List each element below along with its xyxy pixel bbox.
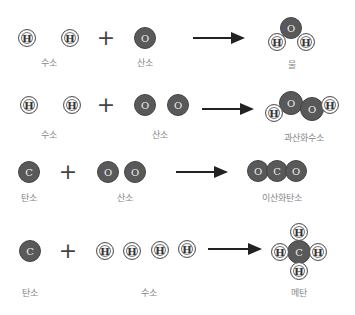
hydrogen-atom: H xyxy=(290,262,308,280)
hydrogen-atom: H xyxy=(18,29,36,47)
plus-sign: + xyxy=(59,161,77,183)
oxygen-atom: O xyxy=(134,94,156,116)
reaction-arrow xyxy=(208,248,260,250)
hydrogen-atom: H xyxy=(151,241,169,259)
hydrogen-atom: H xyxy=(61,29,79,47)
oxygen-atom: O xyxy=(167,94,189,116)
product-label: 과산화수소 xyxy=(284,131,324,144)
reactant-label: 수소 xyxy=(41,128,57,141)
product-label: 이산화탄소 xyxy=(262,191,302,204)
oxygen-atom: O xyxy=(285,160,307,182)
reactant-label: 산소 xyxy=(152,128,168,141)
hydrogen-atom: H xyxy=(63,96,81,114)
oxygen-atom: O xyxy=(97,161,119,183)
reactant-label: 수소 xyxy=(141,286,157,299)
hydrogen-atom: H xyxy=(96,242,114,260)
plus-sign: + xyxy=(97,94,115,116)
reactant-label: 산소 xyxy=(117,191,133,204)
product-label: 물 xyxy=(288,58,296,71)
reactant-label: 탄소 xyxy=(22,286,38,299)
carbon-atom: C xyxy=(287,240,311,264)
oxygen-atom: O xyxy=(124,161,146,183)
oxygen-atom: O xyxy=(300,97,324,121)
hydrogen-atom: H xyxy=(20,96,38,114)
hydrogen-atom: H xyxy=(268,33,286,51)
product-label: 메탄 xyxy=(291,286,307,299)
hydrogen-atom: H xyxy=(265,104,283,122)
hydrogen-atom: H xyxy=(290,223,308,241)
hydrogen-atom: H xyxy=(309,243,327,261)
reaction-arrow xyxy=(193,37,243,39)
reactant-label: 수소 xyxy=(41,56,57,69)
reactant-label: 산소 xyxy=(137,56,153,69)
hydrogen-atom: H xyxy=(297,33,315,51)
hydrogen-atom: H xyxy=(178,240,196,258)
hydrogen-atom: H xyxy=(271,243,289,261)
plus-sign: + xyxy=(59,240,77,262)
hydrogen-atom: H xyxy=(123,242,141,260)
reactant-label: 탄소 xyxy=(21,191,37,204)
oxygen-atom: O xyxy=(134,27,156,49)
chemical-reactions-diagram: H H + O 수소 산소 O H H 물 H H + O O 수소 산소 O … xyxy=(0,0,355,315)
reaction-arrow xyxy=(202,108,252,110)
reaction-arrow xyxy=(176,171,226,173)
hydrogen-atom: H xyxy=(321,96,339,114)
carbon-atom: C xyxy=(18,161,40,183)
plus-sign: + xyxy=(97,27,115,49)
carbon-atom: C xyxy=(19,240,41,262)
